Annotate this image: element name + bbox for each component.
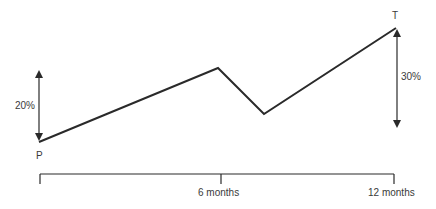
tick-label-6-months: 6 months [198, 187, 239, 198]
start-point-label: P [36, 150, 43, 161]
diagram-canvas [0, 0, 436, 209]
right-arrow-label: 30% [401, 71, 421, 82]
end-point-label: T [392, 10, 398, 21]
tick-label-12-months: 12 months [368, 187, 415, 198]
left-arrow-label: 20% [15, 100, 35, 111]
time-axis [40, 174, 394, 184]
price-path-line [39, 28, 396, 142]
